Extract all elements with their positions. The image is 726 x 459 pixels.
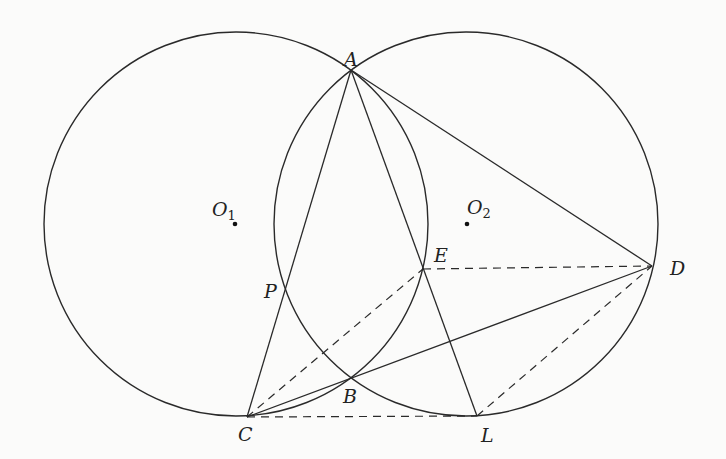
label-o1: O1 bbox=[212, 198, 236, 223]
dashed-c-l bbox=[247, 416, 477, 417]
segment-a-d bbox=[351, 70, 652, 266]
label-a: A bbox=[342, 48, 358, 70]
label-d: D bbox=[669, 257, 685, 279]
segment-a-l bbox=[351, 70, 477, 416]
geometry-figure: A B C D E L P O1 O2 bbox=[0, 0, 726, 459]
label-o2: O2 bbox=[467, 196, 491, 221]
center-o2-dot bbox=[465, 222, 470, 227]
segment-c-d bbox=[247, 266, 652, 417]
dashed-l-d bbox=[477, 266, 652, 416]
label-e: E bbox=[433, 244, 448, 266]
dashed-e-d bbox=[423, 266, 652, 269]
label-c: C bbox=[238, 423, 253, 445]
label-l: L bbox=[480, 424, 494, 446]
label-b: B bbox=[342, 385, 357, 407]
label-p: P bbox=[263, 280, 278, 302]
